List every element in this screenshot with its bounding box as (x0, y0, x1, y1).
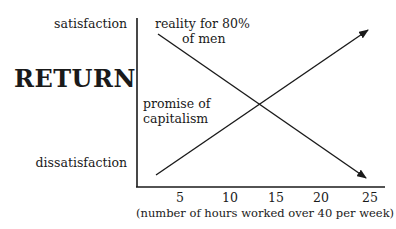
x-tick-20: 20 (313, 190, 329, 205)
y-label-satisfaction: satisfaction (54, 16, 127, 31)
x-tick-15: 15 (268, 190, 284, 205)
x-axis-caption: (number of hours worked over 40 per week… (136, 206, 394, 220)
x-tick-5: 5 (176, 190, 184, 205)
promise-annotation-line2: capitalism (143, 111, 208, 126)
x-tick-10: 10 (222, 190, 238, 205)
y-label-dissatisfaction: dissatisfaction (36, 155, 127, 170)
promise-annotation-line1: promise of (143, 96, 210, 111)
reality-annotation-line2: of men (182, 31, 225, 46)
y-axis-title: RETURN (14, 64, 136, 93)
x-tick-25: 25 (362, 190, 378, 205)
reality-annotation-line1: reality for 80% (155, 16, 250, 31)
